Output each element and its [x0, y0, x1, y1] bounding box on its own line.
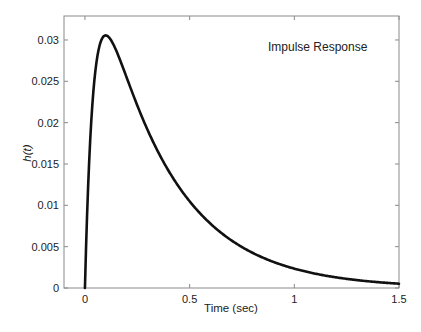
impulse-response-chart: 00.511.5 00.0050.010.0150.020.0250.03 Im…	[0, 0, 421, 332]
y-tick-label: 0.015	[31, 158, 59, 170]
y-tick-label: 0	[53, 282, 59, 294]
plot-area	[64, 16, 399, 288]
x-tick-label: 0.5	[182, 293, 197, 305]
x-axis-label: Time (sec)	[204, 302, 258, 314]
y-tick-label: 0.02	[38, 117, 59, 129]
y-tick-label: 0.03	[38, 34, 59, 46]
x-tick-label: 1	[291, 293, 297, 305]
y-tick-label: 0.01	[38, 199, 59, 211]
y-tick-label: 0.025	[31, 75, 59, 87]
chart-annotation: Impulse Response	[268, 40, 368, 54]
y-axis-label: h(t)	[21, 144, 33, 161]
y-tick-label: 0.005	[31, 241, 59, 253]
x-tick-label: 0	[82, 293, 88, 305]
x-tick-label: 1.5	[391, 293, 406, 305]
